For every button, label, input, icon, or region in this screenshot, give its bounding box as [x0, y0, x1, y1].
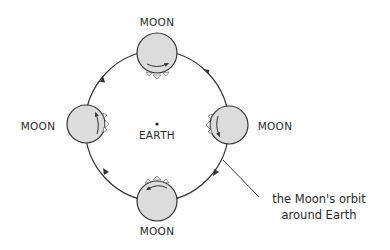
annotation-leader-line — [223, 160, 259, 197]
annotation-line-2: around Earth — [282, 208, 357, 222]
annotation-line-1: the Moon's orbit — [272, 192, 366, 206]
moon-label-left: MOON — [21, 120, 56, 132]
orbit-direction-arrows — [100, 69, 219, 176]
moon-right: MOON — [206, 106, 292, 144]
moon-orbit-diagram: EARTH MOON MOON MOON MOON the Moon's orb — [0, 0, 390, 250]
moon-top: MOON — [137, 16, 177, 79]
moon-label-bottom: MOON — [140, 225, 175, 237]
moon-label-right: MOON — [258, 120, 293, 132]
landmark-triangle-icon — [153, 75, 161, 79]
moon-label-top: MOON — [140, 16, 175, 28]
orbit-annotation: the Moon's orbit around Earth — [223, 160, 366, 222]
orbit-arrow-icon — [103, 168, 109, 175]
landmark-triangle-icon — [153, 176, 161, 180]
moon-bottom: MOON — [137, 176, 177, 237]
landmark-triangle-icon — [206, 121, 210, 129]
earth: EARTH — [139, 122, 175, 141]
moon-left: MOON — [21, 105, 109, 143]
landmark-triangle-icon — [105, 120, 109, 128]
earth-label: EARTH — [139, 129, 175, 141]
earth-dot — [155, 122, 158, 125]
